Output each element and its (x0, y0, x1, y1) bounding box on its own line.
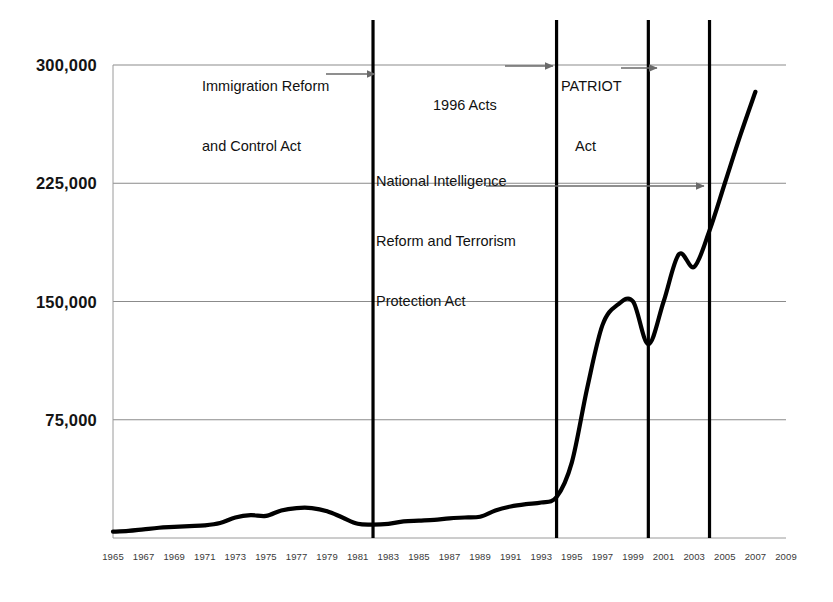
x-axis-labels: 1965196719691971197319751977197919811983… (0, 551, 833, 571)
x-axis-tick-label: 2003 (683, 551, 705, 562)
x-axis-tick-label: 1973 (225, 551, 247, 562)
annotation-patriot-act-line2: Act (561, 136, 622, 156)
x-axis-tick-label: 1993 (530, 551, 552, 562)
x-axis-tick-label: 2005 (714, 551, 736, 562)
x-axis-tick-label: 1983 (378, 551, 400, 562)
y-axis-tick-label: 75,000 (45, 410, 97, 429)
annotation-1996-acts-line1: 1996 Acts (433, 95, 497, 115)
annotation-nirtpa-line1: National Intelligence (376, 171, 516, 191)
annotation-nirtpa-line2: Reform and Terrorism (376, 231, 516, 251)
x-axis-tick-label: 1969 (163, 551, 185, 562)
x-axis-tick-label: 1979 (316, 551, 338, 562)
x-axis-tick-label: 1999 (622, 551, 644, 562)
annotation-immigration-reform: Immigration Reform and Control Act (202, 36, 329, 196)
line-chart: 300,000225,000150,00075,000 Immigration … (0, 0, 833, 602)
y-axis-tick-label: 225,000 (36, 174, 97, 193)
x-axis-tick-label: 1997 (592, 551, 614, 562)
annotation-national-intelligence-reform: National Intelligence Reform and Terrori… (376, 131, 516, 351)
x-axis-tick-label: 1987 (439, 551, 461, 562)
x-axis-tick-label: 1991 (500, 551, 522, 562)
annotation-nirtpa-line3: Protection Act (376, 291, 516, 311)
x-axis-tick-label: 2007 (745, 551, 767, 562)
y-axis-tick-label: 150,000 (36, 292, 97, 311)
annotation-patriot-act-line1: PATRIOT (561, 76, 622, 96)
x-axis-tick-label: 1985 (408, 551, 430, 562)
x-axis-tick-label: 2009 (775, 551, 797, 562)
x-axis-tick-label: 1975 (255, 551, 277, 562)
x-axis-tick-label: 1989 (469, 551, 491, 562)
x-axis-tick-label: 1981 (347, 551, 369, 562)
y-axis-tick-label: 300,000 (36, 56, 97, 75)
annotation-patriot-act: PATRIOT Act (561, 36, 622, 196)
annotation-immigration-reform-line1: Immigration Reform (202, 76, 329, 96)
x-axis-tick-label: 2001 (653, 551, 675, 562)
x-axis-tick-label: 1977 (286, 551, 308, 562)
x-axis-tick-label: 1971 (194, 551, 216, 562)
x-axis-tick-label: 1995 (561, 551, 583, 562)
x-axis-tick-label: 1967 (133, 551, 155, 562)
y-axis-labels: 300,000225,000150,00075,000 (0, 0, 97, 602)
annotation-immigration-reform-line2: and Control Act (202, 136, 329, 156)
x-axis-tick-label: 1965 (102, 551, 124, 562)
